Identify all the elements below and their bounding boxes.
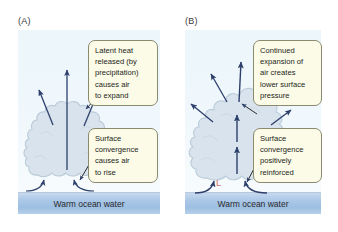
callout-line: convergence [260, 144, 316, 155]
tropical-cyclone-feedback-diagram: (A) Warm ocean water [0, 0, 338, 232]
callout-line: lower surface [260, 79, 316, 90]
surface-convergence-callout: Surface convergence causes air to rise [88, 128, 158, 183]
callout-line: Latent heat [95, 45, 152, 56]
callout-line: released (by [95, 56, 152, 67]
callout-line: convergence [95, 144, 152, 155]
outflow-arrow-b-upper-left [211, 74, 227, 102]
callout-line: expansion of [260, 56, 316, 67]
callout-line: air creates [260, 67, 316, 78]
callout-line: to expand [95, 90, 152, 101]
callout-line: Surface [95, 133, 152, 144]
panel-a-label: (A) [18, 16, 31, 26]
continued-expansion-callout: Continued expansion of air creates lower… [253, 40, 322, 106]
inflow-arrow-a-left [26, 180, 44, 191]
panel-b-label: (B) [185, 16, 198, 26]
callout-line: causes air [95, 155, 152, 166]
positively-reinforced-callout: Surface convergence positively reinforce… [253, 128, 322, 183]
callout-line: to rise [95, 167, 152, 178]
latent-heat-callout: Latent heat released (by precipitation) … [88, 40, 158, 106]
callout-line: precipitation) [95, 67, 152, 78]
callout-line: pressure [260, 90, 316, 101]
inflow-arrow-b-left [195, 181, 214, 193]
callout-line: Surface [260, 133, 316, 144]
callout-line: causes air [95, 79, 152, 90]
callout-line: positively [260, 155, 316, 166]
callout-line: reinforced [260, 167, 316, 178]
low-pressure-marker: L [216, 177, 221, 188]
callout-line: Continued [260, 45, 316, 56]
